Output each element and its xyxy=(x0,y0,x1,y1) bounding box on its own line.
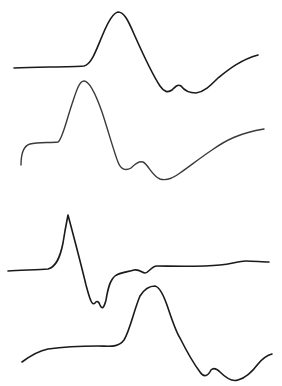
waveform-figure xyxy=(0,0,282,386)
waveform-canvas xyxy=(0,0,282,386)
background xyxy=(0,0,282,386)
